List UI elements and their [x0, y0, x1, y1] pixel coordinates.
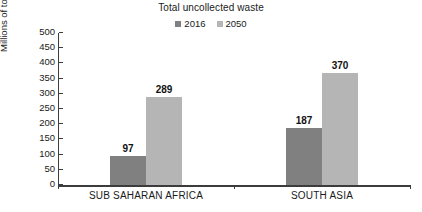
y-tick-label: 450 — [39, 42, 55, 52]
bar-chart: Total uncollected waste 2016 2050 Millio… — [0, 0, 422, 212]
chart-title: Total uncollected waste — [0, 2, 422, 14]
y-tick: 50 — [59, 169, 63, 170]
x-tick — [410, 185, 411, 189]
bar[interactable]: 289 — [146, 97, 182, 185]
y-tick-label: 50 — [44, 164, 55, 174]
category-label: SOUTH ASIA — [291, 190, 353, 202]
y-tick: 150 — [59, 138, 63, 139]
bar[interactable]: 187 — [286, 128, 322, 185]
y-tick: 0 — [59, 184, 63, 185]
y-tick: 400 — [59, 62, 63, 63]
legend-label-2016: 2016 — [184, 18, 205, 29]
y-tick: 250 — [59, 108, 63, 109]
y-tick-label: 400 — [39, 57, 55, 67]
legend-swatch-icon-2016 — [175, 21, 181, 27]
y-tick-label: 250 — [39, 103, 55, 113]
y-tick-label: 100 — [39, 149, 55, 159]
bar-value-label: 97 — [122, 143, 133, 154]
y-tick: 100 — [59, 154, 63, 155]
bar-value-label: 289 — [156, 84, 173, 95]
bar-value-label: 187 — [296, 115, 313, 126]
y-tick-label: 200 — [39, 118, 55, 128]
y-tick: 200 — [59, 123, 63, 124]
y-tick-label: 150 — [39, 133, 55, 143]
legend-swatch-icon-2050 — [217, 21, 223, 27]
y-axis-line — [58, 33, 59, 185]
y-tick-label: 300 — [39, 88, 55, 98]
x-tick — [234, 185, 235, 189]
bar[interactable]: 97 — [110, 156, 146, 185]
y-tick-label: 0 — [50, 179, 55, 189]
y-tick: 500 — [59, 32, 63, 33]
y-axis-title: Millions of tonnes — [0, 0, 9, 52]
y-tick: 350 — [59, 78, 63, 79]
category-label: SUB SAHARAN AFRICA — [89, 190, 203, 202]
chart-legend: 2016 2050 — [0, 18, 422, 29]
legend-item-2016[interactable]: 2016 — [175, 18, 205, 29]
y-tick: 450 — [59, 47, 63, 48]
x-tick — [58, 185, 59, 189]
bar[interactable]: 370 — [322, 73, 358, 185]
legend-item-2050[interactable]: 2050 — [217, 18, 247, 29]
y-tick-label: 500 — [39, 27, 55, 37]
bar-value-label: 370 — [332, 60, 349, 71]
y-tick-label: 350 — [39, 73, 55, 83]
plot-area: 050100150200250300350400450500 972891873… — [58, 33, 410, 185]
legend-label-2050: 2050 — [226, 18, 247, 29]
y-tick: 300 — [59, 93, 63, 94]
